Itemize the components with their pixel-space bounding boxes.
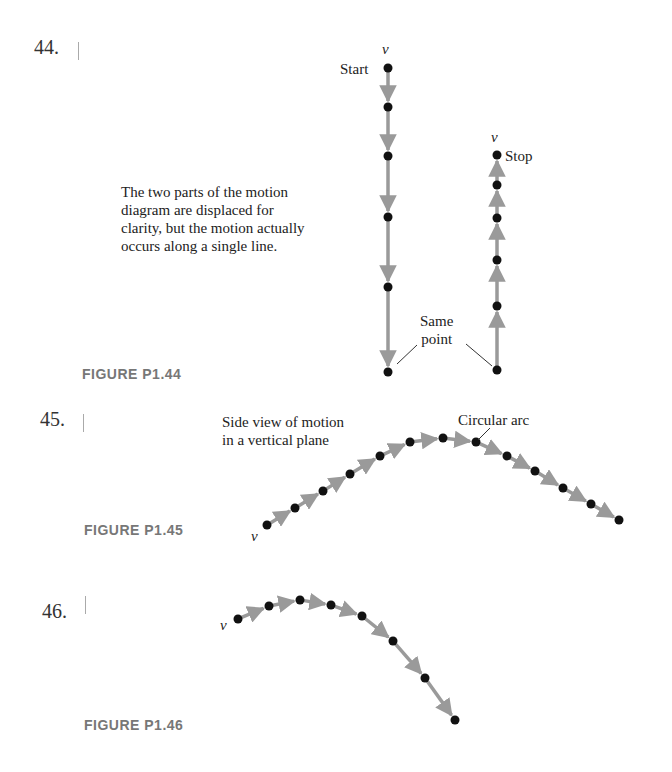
position-dot	[384, 368, 393, 377]
position-dot	[531, 467, 540, 476]
velocity-arrow	[298, 494, 317, 506]
leader-line	[466, 344, 492, 366]
position-dot	[389, 637, 398, 646]
velocity-arrow	[414, 439, 437, 442]
position-dot	[503, 452, 512, 461]
position-dot	[559, 484, 568, 493]
position-dot	[451, 716, 460, 725]
velocity-arrow	[447, 438, 470, 441]
position-dot	[493, 302, 502, 311]
position-dot	[319, 487, 328, 496]
velocity-arrow	[365, 619, 388, 638]
position-dot	[376, 452, 385, 461]
velocity-arrow	[538, 473, 557, 485]
position-dot	[384, 103, 393, 112]
velocity-arrow	[396, 644, 421, 673]
position-dot	[327, 601, 336, 610]
position-dot	[406, 438, 415, 447]
position-dot	[265, 602, 274, 611]
velocity-arrow	[427, 681, 451, 715]
velocity-arrow	[242, 608, 264, 617]
position-dot	[384, 64, 393, 73]
position-dot	[234, 615, 243, 624]
velocity-arrow	[270, 511, 289, 523]
velocity-arrow	[335, 606, 357, 614]
leader-line	[478, 428, 490, 440]
position-dot	[493, 151, 502, 160]
position-dot	[493, 366, 502, 375]
leader-line	[397, 345, 417, 364]
position-dot	[493, 214, 502, 223]
position-dot	[493, 256, 502, 265]
position-dot	[384, 283, 393, 292]
velocity-arrow	[304, 601, 325, 604]
position-dot	[421, 674, 430, 683]
position-dot	[296, 596, 305, 605]
position-dot	[263, 521, 272, 530]
velocity-arrow	[384, 445, 405, 455]
position-dot	[615, 516, 624, 525]
motion-diagrams	[0, 0, 672, 772]
position-dot	[358, 612, 367, 621]
position-dot	[384, 152, 393, 161]
position-dot	[291, 504, 300, 513]
velocity-arrow	[511, 458, 530, 468]
position-dot	[493, 181, 502, 190]
position-dot	[587, 500, 596, 509]
velocity-arrow	[594, 506, 613, 517]
position-dot	[439, 434, 448, 443]
velocity-arrow	[326, 477, 345, 489]
velocity-arrow	[480, 444, 502, 454]
position-dot	[384, 213, 393, 222]
velocity-arrow	[353, 459, 374, 472]
velocity-arrow	[273, 601, 294, 605]
velocity-arrow	[566, 490, 585, 501]
position-dot	[346, 470, 355, 479]
